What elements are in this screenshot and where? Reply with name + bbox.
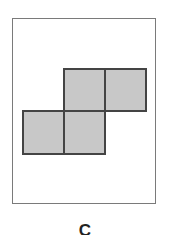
tetromino-shape [0,0,170,235]
cell-top-middle [64,69,105,111]
figure-label: C [0,222,170,235]
cell-top-right [105,69,146,111]
cell-bottom-middle [64,111,105,154]
cell-bottom-left [23,111,64,154]
